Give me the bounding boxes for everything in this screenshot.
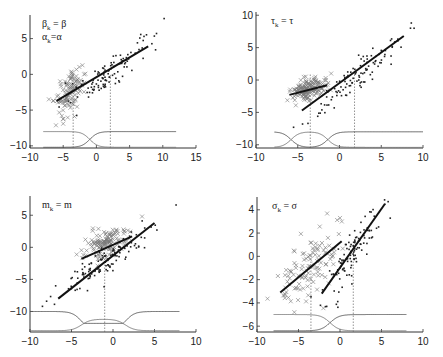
dot-marker (93, 89, 95, 91)
dot-marker (356, 236, 358, 238)
dot-marker (123, 66, 125, 68)
x-marker (64, 84, 68, 88)
gate-curve (274, 132, 423, 147)
dot-marker (354, 230, 356, 232)
x-tick-label: −5 (292, 152, 304, 163)
dot-marker (344, 270, 346, 272)
dot-marker (135, 243, 137, 245)
x-marker (286, 296, 290, 300)
panel-label: βk = β (42, 18, 66, 32)
x-marker (301, 252, 305, 256)
dot-marker (343, 254, 345, 256)
dot-marker (371, 71, 373, 73)
x-tick-label: −5 (66, 336, 78, 347)
y-tick-label: 0 (21, 242, 27, 253)
dot-marker (358, 54, 360, 56)
dot-marker (96, 83, 98, 85)
x-marker (74, 68, 78, 72)
dot-marker (94, 275, 96, 277)
dot-marker (103, 74, 105, 76)
dot-marker (331, 274, 333, 276)
dot-marker (377, 66, 379, 68)
dot-marker (107, 73, 109, 75)
dot-marker (362, 56, 364, 58)
x-marker (54, 123, 58, 127)
y-tick-label: 10 (242, 10, 254, 21)
dot-marker (363, 60, 365, 62)
y-tick-label: −5 (242, 107, 254, 118)
x-marker (79, 248, 83, 252)
dot-marker (360, 86, 362, 88)
gate-curve (274, 132, 423, 147)
dot-marker (350, 267, 352, 269)
x-marker (56, 93, 60, 97)
x-marker (96, 227, 100, 231)
dot-marker (110, 62, 112, 64)
dot-marker (387, 201, 389, 203)
dot-marker (384, 54, 386, 56)
x-marker (323, 275, 327, 279)
dot-marker (99, 269, 101, 271)
dot-marker (103, 252, 105, 254)
dot-marker (340, 86, 342, 88)
gate-curve (274, 315, 407, 331)
dot-marker (92, 82, 94, 84)
dot-marker (77, 271, 79, 273)
x-marker (296, 298, 300, 302)
dot-marker (360, 222, 362, 224)
dot-marker (347, 71, 349, 73)
dot-marker (104, 255, 106, 257)
x-marker (317, 254, 321, 258)
dot-marker (325, 306, 327, 308)
x-marker (325, 211, 329, 215)
dot-marker (154, 35, 156, 37)
x-marker (276, 274, 280, 278)
dot-marker (94, 70, 96, 72)
dot-marker (345, 87, 347, 89)
x-marker (306, 293, 310, 297)
dot-marker (348, 242, 350, 244)
x-marker (293, 98, 297, 102)
dot-marker (336, 81, 338, 83)
x-marker (315, 288, 319, 292)
dot-marker (105, 86, 107, 88)
x-tick-label: −5 (293, 336, 305, 347)
dot-marker (175, 204, 177, 206)
dot-marker (310, 296, 312, 298)
x-marker (324, 262, 328, 266)
dot-marker (87, 87, 89, 89)
dot-marker (366, 253, 368, 255)
x-marker (302, 251, 306, 255)
dot-marker (82, 80, 84, 82)
x-marker (61, 108, 65, 112)
dot-marker (376, 227, 378, 229)
dot-marker (86, 92, 88, 94)
x-marker (297, 282, 301, 286)
dot-marker (91, 83, 93, 85)
dot-marker (92, 89, 94, 91)
dot-marker (366, 58, 368, 60)
dot-marker (98, 271, 100, 273)
x-marker (318, 225, 322, 229)
dot-marker (331, 99, 333, 101)
dot-marker (341, 95, 343, 97)
dot-marker (372, 78, 374, 80)
dot-marker (113, 248, 115, 250)
x-tick-label: 0 (337, 336, 343, 347)
dot-marker (326, 96, 328, 98)
dot-marker (352, 77, 354, 79)
dot-marker (118, 256, 120, 258)
dot-marker (88, 271, 90, 273)
x-marker (293, 286, 297, 290)
dot-marker (413, 27, 415, 29)
dot-marker (346, 248, 348, 250)
dot-marker (101, 255, 103, 257)
y-tick-label: 0 (247, 75, 253, 86)
dot-marker (360, 232, 362, 234)
dot-marker (98, 89, 100, 91)
dot-marker (126, 66, 128, 68)
dot-marker (349, 258, 351, 260)
dot-marker (103, 85, 105, 87)
dot-marker (143, 36, 145, 38)
dot-marker (369, 237, 371, 239)
